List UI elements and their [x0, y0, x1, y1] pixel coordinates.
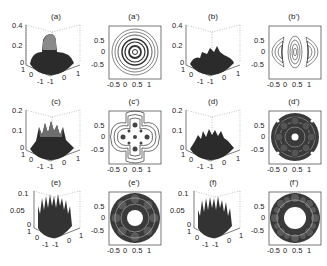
- xtick: 1: [147, 247, 151, 255]
- xtick: 0: [222, 159, 226, 167]
- xtick: 1: [79, 232, 83, 240]
- xtick: 1: [236, 70, 240, 78]
- panel-b-prime: (b') 0.5 0 -0.5 -0.5 0 0.5 1: [250, 0, 327, 88]
- xtick: 0: [123, 247, 127, 255]
- ytick: 0: [189, 71, 193, 79]
- ytick: 0: [261, 48, 265, 56]
- ytick: 0: [261, 133, 265, 141]
- ytick: 0: [101, 48, 105, 56]
- panel-a-prime: (a') 0.5 0 -0.5 -0.5 0 0.5 1: [90, 0, 165, 88]
- ztick: 0.2: [12, 42, 22, 50]
- ytick: -0.5: [91, 146, 104, 154]
- ytick: 0: [101, 214, 105, 222]
- xtick: -0.5: [107, 247, 120, 255]
- ytick: 1: [21, 151, 25, 159]
- ytick: 1: [187, 228, 191, 236]
- ytick: 0.5: [94, 37, 104, 45]
- ytick: -1: [202, 241, 209, 249]
- xtick: 0.5: [292, 247, 302, 255]
- panel-c-prime: (c') 0.5 0 -0.5 -0.5 0 0.5 1: [90, 85, 165, 173]
- xtick: 0: [227, 237, 231, 245]
- ztick: 0.1: [12, 127, 22, 135]
- ytick: 0: [189, 156, 193, 164]
- panel-d: (d) 0.2 0.1 0 1 0 -1 -1 0 1: [160, 85, 255, 173]
- ytick: 0.5: [254, 37, 264, 45]
- ztick: 0.2: [12, 107, 22, 115]
- ytick: 0.5: [254, 122, 264, 130]
- ytick: 0: [29, 71, 33, 79]
- ytick: 0: [195, 234, 199, 242]
- xtick: 0: [222, 74, 226, 82]
- panel-c: (c) 0.2 0.1 0 1 0 -1 -1 0 1: [0, 85, 95, 173]
- ztick: 0.1: [172, 127, 182, 135]
- ytick: -1: [42, 241, 49, 249]
- panel-e: (e) 0.1 0.05 0 1 0 -1 -1 0 1: [0, 170, 95, 258]
- ztick: 0.2: [172, 42, 182, 50]
- xtick: 1: [76, 70, 80, 78]
- panel-f: (f) 0.1 0.05 0 1 0 -1 -1 0 1: [160, 170, 255, 258]
- xtick: 1: [239, 232, 243, 240]
- ztick: 0.05: [10, 207, 25, 215]
- xtick: -1: [52, 241, 59, 249]
- xtick: -0.5: [267, 247, 280, 255]
- panel-d-prime: (d') 0.5 0 -0.5 -0.5 0 0.5 1: [250, 85, 327, 173]
- ytick: 0: [29, 156, 33, 164]
- ytick: -0.5: [91, 61, 104, 69]
- ytick: 0.5: [94, 122, 104, 130]
- ztick: 0.1: [178, 190, 188, 198]
- ytick: 0.5: [254, 203, 264, 211]
- xtick: 0: [62, 74, 66, 82]
- ytick: 0: [261, 214, 265, 222]
- ytick: 0: [101, 133, 105, 141]
- ytick: -0.5: [251, 227, 264, 235]
- ztick: 0.4: [172, 22, 182, 30]
- ytick: 0: [35, 234, 39, 242]
- xtick: 0: [62, 159, 66, 167]
- ztick: 0.2: [172, 107, 182, 115]
- ytick: -0.5: [251, 61, 264, 69]
- ytick: -0.5: [91, 227, 104, 235]
- ytick: 1: [21, 66, 25, 74]
- xtick: 0: [283, 247, 287, 255]
- ztick: 0.05: [170, 207, 185, 215]
- xtick: -1: [212, 241, 219, 249]
- ytick: 0.5: [94, 203, 104, 211]
- xtick: 1: [307, 247, 311, 255]
- ztick: 0.1: [18, 190, 28, 198]
- xtick: 1: [236, 155, 240, 163]
- panel-e-prime: (e') 0.5 0 -0.5 -0.5 0 0.5 1: [90, 170, 165, 258]
- ytick: 1: [181, 66, 185, 74]
- panel-b: (b) 0.4 0.2 0 1 0 -1 -1 0 1: [160, 0, 255, 88]
- panel-a: (a) 0.4 0.2 0 1 0 -1 -1 0 1: [0, 0, 95, 88]
- xtick: 1: [76, 155, 80, 163]
- xtick: 0: [67, 237, 71, 245]
- ytick: 1: [181, 151, 185, 159]
- ytick: -0.5: [251, 146, 264, 154]
- ytick: 1: [27, 228, 31, 236]
- xtick: 0.5: [132, 247, 142, 255]
- ztick: 0.4: [12, 22, 22, 30]
- panel-f-prime: (f') 0.5 0 -0.5 -0.5 0 0.5 1: [250, 170, 327, 258]
